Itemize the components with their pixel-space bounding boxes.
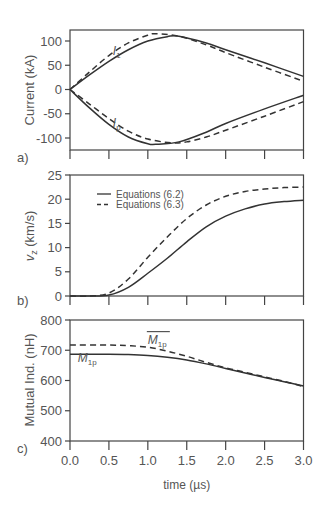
y-tick-label: 50 [48,58,62,73]
series-line-solid [70,354,304,386]
y-tick-label: -100 [36,131,62,146]
figure: 100500-50-100Current (kA)a)I1Ip 25201510… [0,0,329,514]
series-line-solid [70,90,304,145]
y-tick-label: 25 [48,168,62,183]
y-tick-label: -50 [43,106,62,121]
y-tick-label: 15 [48,216,62,231]
y-axis-label: Mutual Ind. (nH) [22,333,37,426]
y-tick-label: 100 [40,34,62,49]
series-line-dashed [70,34,304,90]
plot-frame [70,175,304,296]
shared-x-axis: 0.00.51.01.52.02.53.0time (µs) [61,453,313,492]
panel-label: a) [17,150,29,165]
legend-label: Equations (6.3) [116,199,184,210]
x-tick-label: 1.5 [178,453,196,468]
y-tick-label: 5 [55,264,62,279]
y-tick-label: 400 [40,434,62,449]
plot-frame [70,320,304,441]
y-tick-label: 700 [40,343,62,358]
panel-a-current: 100500-50-100Current (kA)a)I1Ip [17,30,304,165]
x-tick-label: 0.0 [61,453,79,468]
series-line-solid [70,36,304,90]
y-tick-label: 0 [55,289,62,304]
legend-label: Equations (6.2) [116,189,184,200]
panel-b-velocity: 2520151050vz (km/s)b)Equations (6.2)Equa… [17,168,304,309]
series-annotation: Ip [113,116,121,132]
x-tick-label: 2.0 [217,453,235,468]
y-tick-label: 0 [55,82,62,97]
panel-label: c) [17,441,28,456]
y-tick-label: 500 [40,403,62,418]
series-line-solid [70,200,304,296]
x-tick-label: 1.0 [139,453,157,468]
panel-label: b) [17,293,29,308]
series-line-dashed [70,345,304,386]
series-line-dashed [70,90,304,144]
series-annotation: M1p [148,333,167,349]
y-tick-label: 600 [40,373,62,388]
y-tick-label: 800 [40,313,62,328]
plot-frame [70,30,304,150]
x-axis-label: time (µs) [163,478,210,492]
y-tick-label: 20 [48,192,62,207]
y-axis-label: Current (kA) [22,55,37,126]
x-tick-label: 3.0 [294,453,312,468]
panel-c-mutual-inductance: 800700600500400Mutual Ind. (nH)c)M1pM1p [17,313,304,457]
x-tick-label: 2.5 [256,453,274,468]
x-tick-label: 0.5 [100,453,118,468]
y-tick-label: 10 [48,240,62,255]
y-axis-label: vz (km/s) [22,211,39,262]
series-annotation: I1 [113,44,121,60]
